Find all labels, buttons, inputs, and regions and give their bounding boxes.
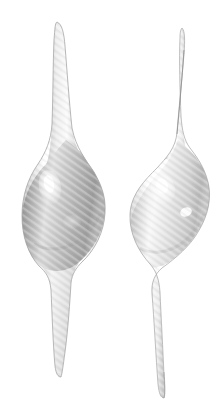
shapes-svg bbox=[0, 0, 224, 418]
render-canvas bbox=[0, 0, 224, 418]
